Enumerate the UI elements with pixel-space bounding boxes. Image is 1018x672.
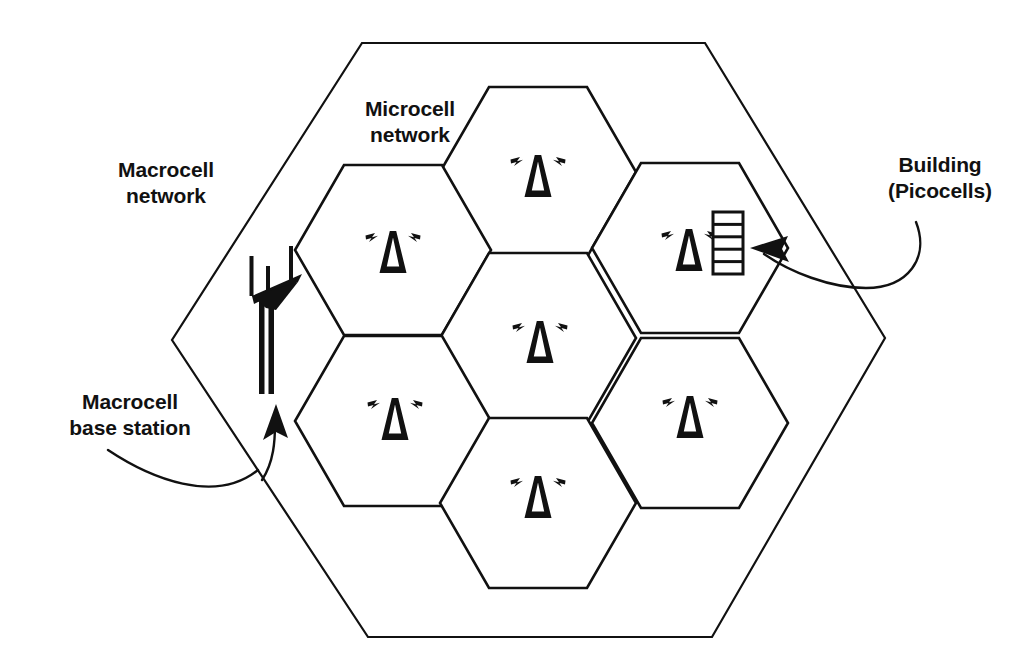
base-station-mast-icon — [250, 246, 303, 394]
cellular-network-diagram — [0, 0, 1018, 672]
label-building-picocells: Building (Picocells) — [860, 152, 1018, 203]
diagram-canvas: Macrocell network Microcell network Buil… — [0, 0, 1018, 672]
building-icon — [713, 212, 743, 274]
label-macrocell-base-station: Macrocell base station — [30, 389, 230, 440]
label-macrocell-network: Macrocell network — [86, 157, 246, 208]
label-microcell-network: Microcell network — [330, 96, 490, 147]
